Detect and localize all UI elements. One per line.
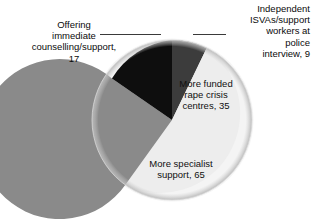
pie-chart: Independent ISVAs/support workers at pol…: [0, 0, 314, 219]
pie-label-more-funded-rape-crisis-centres: More funded rape crisis centres, 35: [160, 78, 252, 112]
pie-label-offering-immediate-counselling: Offering immediate counselling/support, …: [2, 19, 146, 64]
pie-label-isva-support-workers: Independent ISVAs/support workers at pol…: [206, 3, 310, 59]
pie-label-more-specialist-support: More specialist support, 65: [116, 158, 246, 180]
